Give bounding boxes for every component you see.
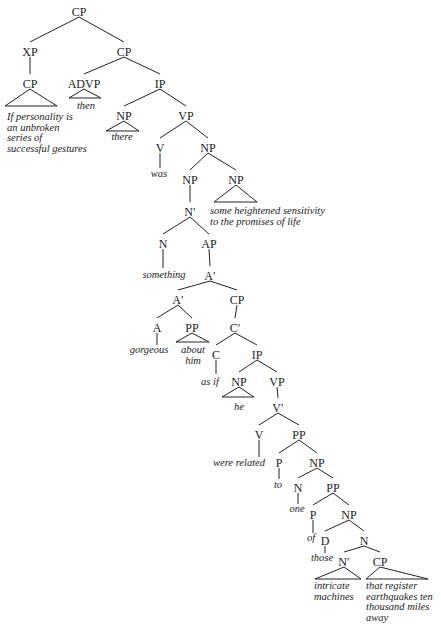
tree-edge: [209, 249, 210, 266]
tree-node-label: NP: [116, 109, 132, 123]
tree-node-label: NP: [341, 508, 357, 522]
tree-node-label: N′: [338, 555, 350, 569]
tree-node-label: N: [159, 237, 168, 251]
terminal-word: were related: [213, 457, 266, 468]
tree-edge: [30, 17, 79, 42]
tree-node-label: VP: [269, 375, 285, 389]
terminal-word-line: there: [111, 131, 133, 142]
tree-node-label: NP: [231, 375, 247, 389]
tree-node-label: V: [255, 428, 264, 442]
tree-nodes: CPXPCPCPADVPIPNPVPVNPNPNPN′NAPA′A′CPAPPC…: [22, 5, 387, 569]
terminal-word: to: [274, 479, 282, 490]
tree-node-label: VP: [178, 109, 194, 123]
tree-edge: [84, 57, 124, 74]
terminal-word: one: [289, 503, 305, 514]
tree-node-label: D: [321, 534, 330, 548]
terminal-word-line: successful gestures: [7, 143, 87, 154]
terminal-word: was: [151, 168, 167, 179]
terminal-word-line: machines: [314, 591, 354, 602]
terminal-word-line: thousand miles: [366, 601, 429, 612]
tree-node-label: A: [153, 321, 162, 335]
terminal-word-line: If personality is: [6, 111, 73, 122]
tree-edge: [160, 89, 186, 106]
terminal-word: then: [77, 100, 95, 111]
tree-node-label: IP: [155, 77, 166, 91]
terminal-word-line: those: [311, 552, 334, 563]
terminal-word-line: was: [151, 168, 167, 179]
tree-edge: [124, 89, 160, 106]
terminal-word-line: to: [274, 479, 282, 490]
terminal-word-line: one: [289, 503, 305, 514]
tree-node-label: NP: [200, 141, 216, 155]
tree-node-label: NP: [182, 173, 198, 187]
tree-edge: [163, 217, 190, 234]
tree-node-label: CP: [72, 5, 87, 19]
tree-triangles: [5, 89, 428, 579]
terminal-word-line: he: [234, 401, 244, 412]
terminal-word-line: that register: [366, 580, 418, 591]
tree-node-label: AP: [201, 237, 217, 251]
terminal-word-line: earthquakes ten: [366, 591, 433, 602]
tree-edges: [30, 17, 380, 552]
tree-node-label: N: [294, 481, 303, 495]
tree-edge: [160, 121, 186, 138]
terminal-word-line: of: [307, 532, 317, 543]
terminal-word: something: [142, 269, 185, 280]
terminal-word-line: gorgeous: [130, 344, 169, 355]
terminal-word-line: an unbroken: [7, 122, 59, 133]
terminal-word-line: were related: [213, 457, 266, 468]
tree-node-label: P: [276, 456, 283, 470]
tree-node-label: CP: [230, 293, 245, 307]
terminal-word-line: something: [142, 269, 185, 280]
tree-edge: [124, 57, 160, 74]
tree-node-label: A′: [172, 293, 184, 307]
terminal-word-line: series of: [7, 132, 44, 143]
terminal-word: abouthim: [181, 344, 206, 366]
tree-edge: [190, 153, 208, 170]
terminal-word: those: [311, 552, 334, 563]
constituent-triangle: [5, 89, 57, 106]
tree-edge: [208, 153, 236, 170]
terminal-word-line: intricate: [314, 580, 350, 591]
tree-node-label: CP: [117, 45, 132, 59]
tree-node-label: IP: [252, 348, 263, 362]
terminal-word: some heightened sensitivityto the promis…: [210, 205, 325, 227]
tree-node-label: N: [360, 534, 369, 548]
tree-edge: [79, 17, 124, 42]
terminal-word-line: away: [366, 612, 389, 623]
terminal-word-line: as if: [201, 376, 221, 387]
terminal-word: If personality isan unbrokenseries ofsuc…: [6, 111, 87, 154]
tree-node-label: PP: [292, 428, 306, 442]
tree-node-label: N′: [184, 205, 196, 219]
terminal-word: he: [234, 401, 244, 412]
terminal-word: of: [307, 532, 317, 543]
terminal-word: intricatemachines: [314, 580, 354, 602]
tree-node-label: V: [156, 141, 165, 155]
tree-node-label: P: [310, 508, 317, 522]
tree-node-label: NP: [309, 456, 325, 470]
terminal-word: gorgeous: [130, 344, 169, 355]
terminal-word-line: some heightened sensitivity: [210, 205, 325, 216]
tree-edge: [186, 121, 208, 138]
tree-edge: [190, 217, 209, 234]
tree-node-label: XP: [22, 45, 38, 59]
tree-node-label: C: [212, 348, 220, 362]
tree-node-label: PP: [185, 321, 199, 335]
tree-node-label: V′: [272, 401, 284, 415]
terminal-word-line: about: [181, 344, 206, 355]
terminal-word-line: then: [77, 100, 95, 111]
terminal-word-line: to the promises of life: [210, 216, 301, 227]
tree-node-label: C′: [230, 321, 241, 335]
constituent-triangle: [214, 185, 257, 202]
tree-node-label: A′: [204, 269, 216, 283]
terminal-word-line: him: [185, 355, 201, 366]
tree-node-label: NP: [228, 173, 244, 187]
terminal-word: as if: [201, 376, 221, 387]
terminal-word: that registerearthquakes tenthousand mil…: [366, 580, 433, 623]
tree-node-label: CP: [373, 555, 388, 569]
tree-node-label: PP: [326, 481, 340, 495]
tree-node-label: CP: [23, 77, 38, 91]
terminal-word: there: [111, 131, 133, 142]
tree-node-label: ADVP: [68, 77, 101, 91]
syntax-tree-diagram: CPXPCPCPADVPIPNPVPVNPNPNPN′NAPA′A′CPAPPC…: [0, 0, 441, 624]
